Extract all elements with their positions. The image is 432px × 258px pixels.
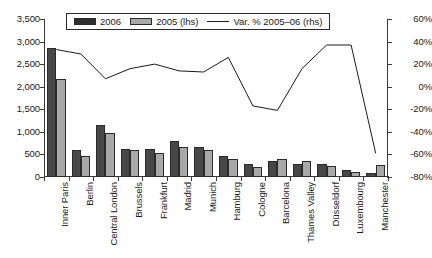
left-axis-tick-mark bbox=[40, 154, 45, 155]
x-axis-tick-mark bbox=[118, 176, 119, 181]
x-axis-category-label: Barcelona bbox=[281, 182, 291, 224]
x-axis-category-label: Düsseldorf bbox=[331, 182, 341, 226]
x-axis-tick-mark bbox=[44, 176, 45, 181]
bar-2006 bbox=[219, 156, 228, 177]
x-axis-category-label: Brussels bbox=[134, 182, 144, 218]
legend-item-variation: Var. % 2005–06 (rhs) bbox=[207, 17, 322, 27]
bar-2006 bbox=[293, 164, 302, 177]
bar-2006 bbox=[342, 170, 351, 177]
bar-group bbox=[268, 19, 287, 177]
right-axis-tick-mark bbox=[387, 109, 392, 110]
x-axis-tick-mark bbox=[363, 176, 364, 181]
x-axis-tick-mark bbox=[216, 176, 217, 181]
left-axis-tick-label: 3,000 bbox=[4, 37, 40, 47]
right-axis-tick-label: -20% bbox=[396, 104, 432, 114]
bar-group bbox=[244, 19, 263, 177]
right-axis-tick-label: -40% bbox=[396, 127, 432, 137]
chart-container: 2006 2005 (lhs) Var. % 2005–06 (rhs) 3,5… bbox=[0, 0, 432, 258]
legend-label-variation: Var. % 2005–06 (rhs) bbox=[233, 17, 322, 27]
x-axis-category-label: Luxembourg bbox=[355, 182, 365, 234]
x-axis-category-label: Thames Valley bbox=[306, 182, 316, 243]
x-axis-tick-mark bbox=[314, 176, 315, 181]
x-axis-category-label: Manchester bbox=[380, 182, 390, 231]
bar-group bbox=[342, 19, 361, 177]
x-axis-tick-mark bbox=[69, 176, 70, 181]
bar-group bbox=[366, 19, 385, 177]
x-axis-tick-mark bbox=[265, 176, 266, 181]
x-axis-category-label: Berlin bbox=[85, 182, 95, 206]
bar-group bbox=[293, 19, 312, 177]
bar-2006 bbox=[47, 48, 56, 177]
right-axis-tick-label: -60% bbox=[396, 149, 432, 159]
bar-2005 bbox=[105, 133, 114, 177]
x-axis-category-label: Munich bbox=[208, 182, 218, 212]
x-axis-tick-mark bbox=[191, 176, 192, 181]
bar-2005 bbox=[81, 156, 90, 177]
left-axis-tick-label: 1,000 bbox=[4, 127, 40, 137]
bar-2006 bbox=[96, 125, 105, 177]
bar-2006 bbox=[244, 164, 253, 177]
left-axis-tick-label: 1,500 bbox=[4, 104, 40, 114]
bar-2005 bbox=[130, 150, 139, 177]
bar-group bbox=[47, 19, 66, 177]
bar-2005 bbox=[253, 167, 262, 177]
bar-2006 bbox=[194, 147, 203, 177]
left-axis-tick-mark bbox=[40, 42, 45, 43]
x-axis-tick-mark bbox=[167, 176, 168, 181]
left-axis-tick-label: 2,500 bbox=[4, 59, 40, 69]
legend-label-2005: 2005 (lhs) bbox=[156, 17, 198, 27]
right-axis-tick-mark bbox=[387, 42, 392, 43]
bar-group bbox=[121, 19, 140, 177]
bar-2006 bbox=[72, 150, 81, 177]
bar-2006 bbox=[268, 161, 277, 177]
bar-2006 bbox=[366, 173, 375, 178]
bar-group bbox=[96, 19, 115, 177]
bar-2005 bbox=[327, 166, 336, 177]
bar-2005 bbox=[155, 153, 164, 177]
legend-swatch-2005-icon bbox=[130, 18, 152, 25]
right-axis-tick-label: 40% bbox=[396, 37, 432, 47]
x-axis-category-label: Frankfurt bbox=[159, 182, 169, 219]
right-axis-tick-label: 20% bbox=[396, 59, 432, 69]
left-axis-tick-mark bbox=[40, 132, 45, 133]
left-axis-tick-mark bbox=[40, 64, 45, 65]
x-axis-tick-mark bbox=[388, 176, 389, 181]
bar-2005 bbox=[302, 161, 311, 177]
right-axis-tick-label: 60% bbox=[396, 14, 432, 24]
x-axis-category-label: Central London bbox=[109, 182, 119, 246]
left-axis-tick-label: 0 bbox=[4, 172, 40, 182]
legend-item-2005: 2005 (lhs) bbox=[130, 17, 198, 27]
left-axis-tick-label: 2,000 bbox=[4, 82, 40, 92]
left-axis-tick-mark bbox=[40, 109, 45, 110]
x-axis-tick-mark bbox=[290, 176, 291, 181]
x-axis-category-label: Madrid bbox=[183, 182, 193, 210]
x-axis-tick-mark bbox=[93, 176, 94, 181]
bar-2006 bbox=[317, 164, 326, 177]
x-axis-tick-mark bbox=[241, 176, 242, 181]
right-axis-tick-mark bbox=[387, 19, 392, 20]
right-axis-tick-mark bbox=[387, 87, 392, 88]
bar-group bbox=[219, 19, 238, 177]
left-axis-tick-mark bbox=[40, 87, 45, 88]
right-axis-tick-label: 0% bbox=[396, 82, 432, 92]
bar-2005 bbox=[204, 150, 213, 177]
bar-group bbox=[72, 19, 91, 177]
left-axis-tick-mark bbox=[40, 19, 45, 20]
bar-group bbox=[145, 19, 164, 177]
right-axis-tick-mark bbox=[387, 64, 392, 65]
bar-2005 bbox=[179, 147, 188, 177]
chart-legend: 2006 2005 (lhs) Var. % 2005–06 (rhs) bbox=[66, 13, 330, 30]
bar-2005 bbox=[228, 159, 237, 178]
bar-group bbox=[170, 19, 189, 177]
bar-2005 bbox=[277, 159, 286, 177]
bar-group bbox=[194, 19, 213, 177]
x-axis-category-label: Hamburg bbox=[232, 182, 242, 220]
bar-2005 bbox=[351, 172, 360, 177]
left-axis-tick-label: 3,500 bbox=[4, 14, 40, 24]
left-axis-tick-label: 500 bbox=[4, 149, 40, 159]
plot-area bbox=[44, 19, 388, 177]
bar-2006 bbox=[145, 149, 154, 177]
right-axis-tick-mark bbox=[387, 132, 392, 133]
right-axis-tick-label: -80% bbox=[396, 172, 432, 182]
x-axis-category-label: Inner Paris bbox=[60, 182, 70, 227]
